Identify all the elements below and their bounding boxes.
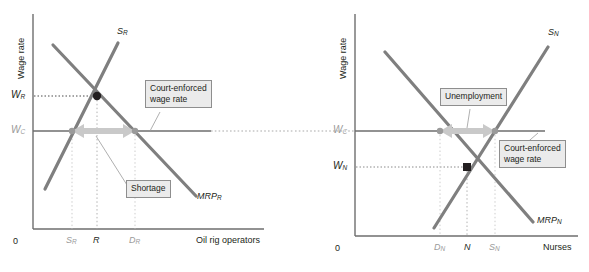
callout-line-1: Court-enforced	[150, 83, 207, 94]
callout-court-enforced-wage-rate: Court-enforced wage rate	[145, 80, 212, 108]
x-tick-supply-quantity: SN	[489, 243, 500, 253]
y-tick-equilibrium-wage: WN	[333, 161, 347, 172]
mrp-curve-label: MRPR	[197, 192, 222, 202]
x-tick-demand-quantity: DR	[129, 236, 140, 246]
x-tick-demand-quantity: DN	[434, 243, 445, 253]
supply-curve	[434, 47, 548, 228]
callout-court-enforced-wage-rate: Court-enforced wage rate	[499, 140, 566, 168]
callout-shortage: Shortage	[126, 180, 171, 198]
panel-oil-rig-operators: Wage rate WR WC 0 SR R DR Oil rig operat…	[0, 0, 294, 272]
origin-label: 0	[335, 244, 340, 253]
x-tick-supply-quantity: SR	[66, 236, 77, 246]
mrp-curve-label: MRPN	[537, 216, 562, 226]
figure-canvas: Wage rate WR WC 0 SR R DR Oil rig operat…	[0, 0, 589, 272]
y-axis-title: Wage rate	[339, 38, 348, 79]
supply-curve-label: SN	[548, 28, 559, 38]
mrp-curve	[385, 52, 533, 222]
callout-line-2: wage rate	[150, 94, 207, 105]
callout-line-2: wage rate	[504, 154, 561, 165]
callout-line-1: Shortage	[131, 183, 166, 194]
y-tick-equilibrium-wage: WR	[11, 90, 25, 101]
leader-shortage	[96, 136, 127, 185]
dot-supply-constrained	[69, 128, 75, 134]
x-axis-title: Oil rig operators	[196, 236, 260, 245]
dot-demand-constrained	[437, 128, 443, 134]
callout-unemployment: Unemployment	[440, 88, 507, 106]
dot-equilibrium	[463, 163, 471, 171]
y-tick-court-wage: WC	[11, 125, 25, 136]
x-axis-title: Nurses	[543, 243, 572, 252]
leader-court-enforced	[150, 112, 160, 131]
supply-curve	[45, 43, 118, 189]
origin-label: 0	[13, 237, 18, 246]
supply-curve-label: SR	[117, 27, 128, 37]
leader-unemployment	[467, 109, 470, 128]
callout-line-1: Court-enforced	[504, 143, 561, 154]
x-tick-equilibrium-quantity: N	[464, 243, 471, 252]
y-axis-title: Wage rate	[17, 38, 26, 79]
callout-line-1: Unemployment	[445, 91, 502, 102]
dot-demand-constrained	[132, 128, 138, 134]
y-tick-court-wage: WC	[333, 125, 347, 136]
left-panel-plot	[0, 0, 294, 272]
panel-nurses: Wage rate WC WN 0 DN N SN Nurses SN MRPN…	[295, 0, 589, 272]
mrp-curve	[53, 45, 196, 196]
dot-supply-constrained	[492, 128, 498, 134]
shortage-arrow	[72, 124, 135, 138]
dot-equilibrium	[93, 92, 101, 100]
x-tick-equilibrium-quantity: R	[93, 236, 100, 245]
